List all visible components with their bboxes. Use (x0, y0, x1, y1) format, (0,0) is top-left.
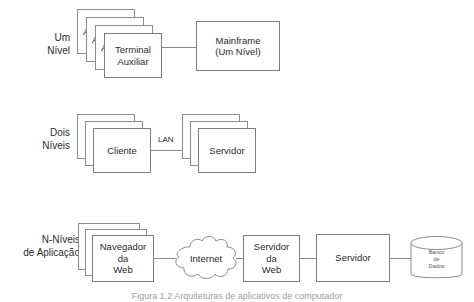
node-servidor-aplicacao[interactable]: Servidor (316, 234, 390, 282)
node-label-line: Internet (190, 253, 222, 264)
figure-caption: Figura 1.2 Arquiteturas de aplicativos d… (0, 291, 474, 302)
connector-label-lan: LAN (158, 135, 174, 144)
node-label: Internet (170, 253, 242, 264)
node-label-line: Terminal (115, 44, 151, 56)
node-label: Cliente (105, 145, 139, 157)
tier-label-line: de Aplicação (2, 247, 80, 260)
node-label-line: Servidor (254, 241, 289, 253)
node-label-line: da (100, 253, 146, 265)
node-terminal-auxiliar[interactable]: Terminal Auxiliar (104, 33, 162, 78)
node-label-line: da (254, 253, 289, 265)
node-servidor[interactable]: Servidor (198, 128, 256, 173)
node-label-line: Mainframe (215, 35, 260, 47)
node-label: Navegador da Web (98, 241, 148, 276)
node-label: Mainframe (Um Nível) (213, 35, 262, 58)
tier-label-um-nivel: Um Nível (8, 32, 70, 57)
node-servidor-da-web[interactable]: Servidor da Web (243, 235, 300, 282)
tier-label-n-niveis: N-Níveis de Aplicação (2, 234, 80, 259)
node-mainframe[interactable]: Mainframe (Um Nível) (196, 21, 280, 71)
node-label-line: Web (254, 264, 289, 276)
tier-label-line: Um (8, 32, 70, 45)
node-navegador-da-web[interactable]: Navegador da Web (92, 235, 154, 282)
connector-servidor-web-to-servidor (299, 258, 317, 259)
node-label: Banco de Dados (409, 248, 464, 269)
node-label: Terminal Auxiliar (113, 44, 153, 67)
tier-label-dois-niveis: Dois Níveis (8, 127, 70, 152)
node-label: Servidor da Web (252, 241, 291, 276)
node-cliente[interactable]: Cliente (93, 128, 151, 173)
node-internet-cloud[interactable]: Internet (170, 233, 242, 283)
tier-label-line: Dois (8, 127, 70, 140)
node-label-line: de (409, 255, 464, 262)
connector-terminal-to-mainframe (158, 47, 197, 48)
node-label-line: Servidor (209, 145, 244, 157)
node-label-line: Dados (409, 262, 464, 269)
tier-label-line: Níveis (8, 140, 70, 153)
node-label: Servidor (333, 252, 372, 264)
node-label-line: Web (100, 264, 146, 276)
node-label-line: Navegador (100, 241, 146, 253)
node-label: Servidor (207, 145, 246, 157)
node-label-line: Banco (409, 248, 464, 255)
node-label-line: Servidor (335, 252, 370, 264)
tier-label-line: N-Níveis (2, 234, 80, 247)
node-banco-de-dados[interactable]: Banco de Dados (409, 234, 464, 283)
node-label-line: Auxiliar (115, 56, 151, 68)
tier-label-line: Nível (8, 45, 70, 58)
node-label-line: Cliente (107, 145, 137, 157)
node-label-line: (Um Nível) (215, 46, 260, 58)
